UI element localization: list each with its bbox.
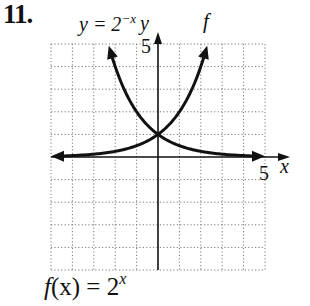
curve1-label: f [203,9,212,33]
x-axis-label: x [279,155,289,177]
y-axis-label: y [138,12,149,35]
caption-argument: (x) [51,273,80,300]
curve2-label: y = 2−x [77,11,136,36]
exponential-graph: y = 2−x y f 5 5 x [0,0,310,306]
axes [51,32,290,270]
y-tick-label: 5 [141,35,151,57]
caption-exponent: x [119,270,126,287]
x-tick-label: 5 [259,162,269,184]
function-caption: f(x) = 2x [44,272,126,301]
caption-equals: = 2 [80,273,119,300]
caption-function-name: f [44,273,51,300]
